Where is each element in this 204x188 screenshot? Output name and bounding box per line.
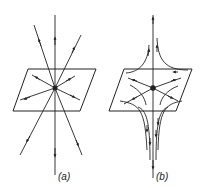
- plane-b: [109, 69, 192, 111]
- flow-lines-b: [120, 15, 188, 178]
- center-point-b: [150, 85, 156, 91]
- panel-label-b: (b): [156, 171, 168, 182]
- flow-lines-a: [20, 15, 82, 175]
- diagram-canvas: (a): [0, 0, 204, 188]
- arrowheads-a: [25, 38, 78, 156]
- panel-label-a: (a): [58, 171, 70, 182]
- panel-a: (a): [13, 15, 96, 182]
- arrowheads-b: [133, 18, 178, 168]
- panel-b: (b): [109, 15, 192, 182]
- center-point-a: [53, 86, 58, 91]
